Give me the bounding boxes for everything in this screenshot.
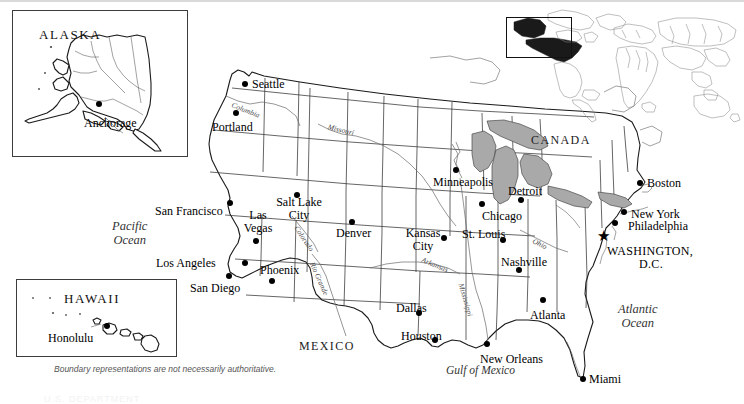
city-marker-san-diego <box>226 273 232 279</box>
city-label-miami: Miami <box>589 373 621 385</box>
city-marker-boston <box>637 180 643 186</box>
city-label-anchorage: Anchorage <box>84 117 137 129</box>
city-marker-chicago <box>479 201 485 207</box>
region-label-mexico: MEXICO <box>299 339 355 354</box>
city-marker-anchorage <box>96 101 102 107</box>
city-label-honolulu: Honolulu <box>48 332 93 344</box>
city-label-philadelphia: Philadelphia <box>628 220 688 232</box>
city-marker-miami <box>580 376 586 382</box>
ocean-label-pacific-line2: Ocean <box>112 234 147 248</box>
city-marker-honolulu <box>104 323 110 329</box>
city-label-detroit: Detroit <box>508 185 542 197</box>
city-label-san-francisco: San Francisco <box>155 205 223 217</box>
city-marker-denver <box>349 219 355 225</box>
city-label-san-diego: San Diego <box>190 282 240 294</box>
city-marker-new-orleans <box>484 341 490 347</box>
region-label-canada: CANADA <box>531 133 591 148</box>
city-label-washington-dc-line1: WASHINGTON, <box>607 245 699 258</box>
city-label-salt-lake-city-line1: Salt Lake <box>269 196 329 209</box>
city-label-kansas-city-line1: Kansas <box>400 227 446 240</box>
city-marker-new-york <box>621 209 627 215</box>
city-marker-phoenix <box>269 278 275 284</box>
city-label-boston: Boston <box>647 177 681 189</box>
city-marker-portland <box>233 110 239 116</box>
hawaii-inset: HAWAII <box>16 279 177 357</box>
ocean-label-atlantic-line2: Ocean <box>618 317 658 331</box>
city-marker-san-francisco <box>227 200 233 206</box>
city-label-atlanta: Atlanta <box>530 309 565 321</box>
city-label-dallas: Dallas <box>396 302 427 314</box>
map-page: ALASKA Anchorage HAWAII Honolulu <box>0 0 744 404</box>
city-marker-philadelphia <box>612 220 618 226</box>
city-label-washington-dc: WASHINGTON, D.C. <box>607 245 699 270</box>
city-label-los-angeles: Los Angeles <box>156 257 216 269</box>
footer-fragment-text: U.S. DEPARTMENT <box>44 394 140 404</box>
city-label-phoenix: Phoenix <box>260 264 299 276</box>
ocean-label-pacific-line1: Pacific <box>112 220 147 234</box>
city-marker-los-angeles <box>242 260 248 266</box>
city-marker-las-vegas <box>253 238 259 244</box>
alaska-inset: ALASKA <box>12 10 188 157</box>
hawaii-inset-title: HAWAII <box>64 291 120 307</box>
city-marker-atlanta <box>540 297 546 303</box>
city-label-new-orleans: New Orleans <box>480 353 543 365</box>
city-label-kansas-city-line2: City <box>400 240 446 253</box>
city-label-st-louis: St. Louis <box>462 228 505 240</box>
ocean-label-atlantic-line1: Atlantic <box>618 303 658 317</box>
ocean-label-atlantic: Atlantic Ocean <box>618 303 658 330</box>
city-label-washington-dc-line2: D.C. <box>607 258 695 271</box>
city-label-salt-lake-city: Salt Lake City <box>269 196 329 221</box>
city-label-minneapolis: Minneapolis <box>433 176 493 188</box>
city-label-houston: Houston <box>401 330 442 342</box>
locator-highlight-frame <box>506 17 572 58</box>
city-label-seattle: Seattle <box>252 78 285 90</box>
city-label-portland: Portland <box>212 121 253 133</box>
city-label-kansas-city: Kansas City <box>400 227 446 252</box>
city-label-nashville: Nashville <box>501 256 547 268</box>
alaska-inset-title: ALASKA <box>39 27 101 43</box>
city-label-chicago: Chicago <box>482 210 522 222</box>
city-marker-minneapolis <box>453 167 459 173</box>
ocean-label-pacific: Pacific Ocean <box>112 220 147 247</box>
city-label-denver: Denver <box>336 227 371 239</box>
boundary-disclaimer: Boundary representations are not necessa… <box>54 364 276 374</box>
city-label-salt-lake-city-line2: City <box>269 209 329 222</box>
city-marker-seattle <box>242 81 248 87</box>
city-label-las-vegas-line2: Vegas <box>236 222 280 235</box>
